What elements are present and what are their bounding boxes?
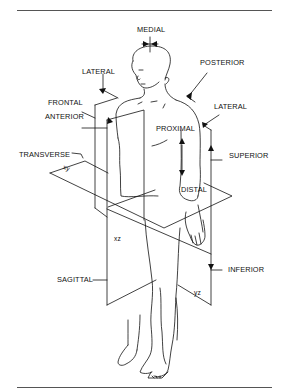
label-lateral-right: LATERAL: [214, 103, 247, 110]
label-anterior: ANTERIOR: [45, 113, 84, 120]
anatomy-diagram: MEDIAL LATERAL POSTERIOR FRONTAL ANTERIO…: [0, 0, 285, 390]
human-figure: [116, 46, 205, 378]
label-medial: MEDIAL: [137, 26, 165, 33]
plane-tag-yz: yz: [194, 290, 201, 297]
posterior-arrow-icon: [186, 92, 192, 100]
label-transverse: TRANSVERSE: [19, 151, 70, 158]
inferior-arrow-icon: [208, 264, 214, 270]
yz-plane: [178, 125, 211, 305]
label-posterior: POSTERIOR: [200, 59, 244, 66]
anterior-arrow-icon: [107, 117, 113, 124]
label-superior: SUPERIOR: [229, 152, 268, 159]
label-distal: DISTAL: [181, 186, 207, 193]
superior-arrow-icon: [208, 145, 214, 151]
label-sagittal: SAGITTAL: [57, 276, 93, 283]
frontal-plane: [95, 98, 117, 217]
proximal-arrow-icon: [179, 138, 185, 144]
label-inferior: INFERIOR: [228, 266, 264, 273]
sagittal-plane: [107, 110, 156, 305]
label-lateral-left: LATERAL: [82, 68, 115, 75]
distal-arrow-icon: [179, 170, 185, 176]
transverse-plane: [50, 161, 232, 254]
label-frontal: FRONTAL: [48, 99, 83, 106]
plane-tag-xz: xz: [114, 236, 121, 243]
label-proximal: PROXIMAL: [156, 125, 195, 132]
